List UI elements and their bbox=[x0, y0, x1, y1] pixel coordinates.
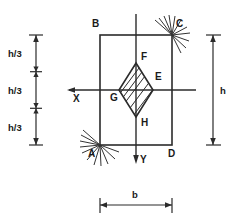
right-dimension-arrow-top bbox=[210, 35, 216, 42]
label-point-h: H bbox=[141, 117, 148, 128]
x-axis-label: X bbox=[73, 93, 80, 104]
label-corner-b: B bbox=[92, 18, 99, 29]
left-dimension-arrow-1-down bbox=[33, 72, 38, 77]
left-dimension-arrow-bottom bbox=[33, 138, 39, 145]
support-ray bbox=[155, 20, 172, 35]
dimension-label-h3-top: h/3 bbox=[8, 48, 22, 59]
right-dimension-arrow-bottom bbox=[210, 138, 216, 145]
left-dimension-arrow-2-up bbox=[33, 103, 38, 108]
label-corner-c: C bbox=[176, 18, 183, 29]
left-dimension-group: h/3 h/3 h/3 bbox=[8, 35, 43, 145]
bottom-dimension-arrow-right bbox=[165, 202, 172, 208]
bottom-dimension-group: b bbox=[100, 189, 172, 213]
label-corner-a: A bbox=[88, 148, 95, 159]
right-dimension-group: h bbox=[206, 35, 226, 145]
y-axis-arrowhead bbox=[133, 155, 139, 164]
support-ray bbox=[100, 145, 115, 159]
bottom-dimension-arrow-left bbox=[100, 202, 107, 208]
y-axis-label: Y bbox=[140, 154, 147, 165]
dimension-label-h3-bottom: h/3 bbox=[8, 122, 22, 133]
left-dimension-arrow-2-down bbox=[33, 108, 38, 113]
x-axis-arrowhead bbox=[67, 87, 75, 93]
diagram-canvas: h/3 h/3 h/3 X Y bbox=[0, 0, 241, 223]
dimension-label-b: b bbox=[132, 189, 138, 200]
label-point-f: F bbox=[141, 51, 147, 62]
left-dimension-arrow-top bbox=[33, 35, 39, 42]
left-dimension-arrow-1-up bbox=[33, 67, 38, 72]
label-corner-d: D bbox=[168, 148, 175, 159]
cross-section-figure: h/3 h/3 h/3 X Y bbox=[0, 0, 241, 223]
dimension-label-h3-middle: h/3 bbox=[8, 85, 22, 96]
x-axis-group: X bbox=[67, 87, 196, 104]
dimension-label-h: h bbox=[220, 85, 226, 96]
label-point-e: E bbox=[155, 71, 162, 82]
label-point-g: G bbox=[110, 92, 118, 103]
